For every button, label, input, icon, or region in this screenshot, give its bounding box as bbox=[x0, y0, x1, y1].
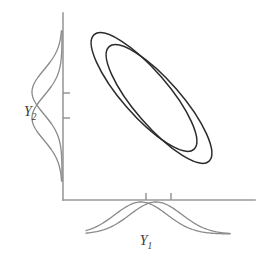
marginal-y-curve-2 bbox=[32, 31, 62, 181]
marginal-x-curve-2 bbox=[86, 202, 230, 233]
ellipse-group-1 bbox=[77, 20, 211, 165]
marginal-distribution-x bbox=[86, 202, 230, 234]
x-axis-ticks bbox=[146, 193, 171, 200]
figure-container: Y2 Y1 bbox=[0, 0, 260, 256]
y-axis-ticks bbox=[63, 93, 70, 118]
ellipse-group-2 bbox=[92, 32, 226, 177]
y-axis-label: Y2 bbox=[24, 104, 37, 122]
concentration-ellipses bbox=[77, 20, 226, 177]
bivariate-ellipse-diagram: Y2 Y1 bbox=[0, 0, 260, 256]
x-axis-label: Y1 bbox=[140, 233, 153, 251]
marginal-distribution-y bbox=[32, 31, 62, 181]
